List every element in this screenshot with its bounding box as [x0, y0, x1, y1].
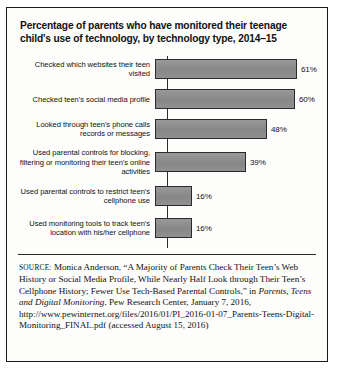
bar-value-label: 48%	[271, 125, 287, 134]
bar-zone: 48%	[155, 114, 319, 144]
bar-row: Checked which websites their teen visite…	[19, 54, 319, 84]
plot-area: Checked which websites their teen visite…	[19, 54, 319, 250]
bar-zone: 16%	[155, 180, 319, 212]
bar-zone: 39%	[155, 144, 319, 180]
bar-category-label: Used parental controls for blocking, fil…	[19, 148, 155, 177]
bar-zone: 61%	[155, 54, 319, 84]
bar-category-label: Used monitoring tools to track teen's lo…	[19, 219, 155, 238]
bar-category-label: Looked through teen's phone calls record…	[19, 120, 155, 139]
source-citation: SOURCE: Monica Anderson, “A Majority of …	[19, 262, 315, 332]
bar-category-label: Used parental controls to restrict teen'…	[19, 187, 155, 206]
bar-chart: Checked which websites their teen visite…	[7, 54, 327, 250]
bar-row: Used monitoring tools to track teen's lo…	[19, 212, 319, 244]
bar-1	[155, 89, 295, 109]
bar-2	[155, 119, 267, 139]
bar-0	[155, 59, 297, 79]
bar-row: Looked through teen's phone calls record…	[19, 114, 319, 144]
bar-5	[155, 218, 192, 238]
bar-value-label: 39%	[250, 158, 266, 167]
bar-value-label: 16%	[196, 224, 212, 233]
bar-value-label: 16%	[196, 192, 212, 201]
bar-row: Checked teen's social media profile 60%	[19, 84, 319, 114]
source-divider	[18, 254, 316, 255]
bar-category-label: Checked teen's social media profile	[19, 95, 155, 105]
bar-row: Used parental controls to restrict teen'…	[19, 180, 319, 212]
bar-zone: 16%	[155, 212, 319, 244]
bar-value-label: 61%	[301, 65, 317, 74]
bar-zone: 60%	[155, 84, 319, 114]
source-prefix-label: SOURCE:	[19, 263, 52, 272]
bar-3	[155, 152, 246, 172]
bar-category-label: Checked which websites their teen visite…	[19, 60, 155, 79]
chart-title: Percentage of parents who have monitored…	[20, 19, 314, 45]
bar-value-label: 60%	[299, 95, 315, 104]
bar-4	[155, 186, 192, 206]
figure-container: Percentage of parents who have monitored…	[6, 7, 328, 362]
bar-row: Used parental controls for blocking, fil…	[19, 144, 319, 180]
